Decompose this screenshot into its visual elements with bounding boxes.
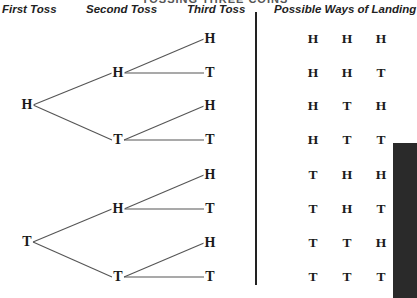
node-third-toss-tails: T — [204, 270, 215, 284]
outcome-tails: T — [336, 269, 358, 285]
outcome-row: TTT — [302, 269, 392, 285]
outcome-heads: H — [302, 132, 324, 148]
column-divider — [255, 12, 257, 285]
outcome-heads: H — [336, 65, 358, 81]
branch-line — [124, 39, 204, 73]
outcome-row: HHH — [302, 31, 392, 47]
node-second-toss-tails: T — [112, 133, 123, 147]
outcome-tails: T — [302, 235, 324, 251]
outcome-tails: T — [302, 167, 324, 183]
outcome-heads: H — [336, 31, 358, 47]
node-third-toss-tails: T — [204, 66, 215, 80]
branch-line — [124, 243, 204, 277]
node-third-toss-heads: H — [204, 168, 217, 182]
branch-line — [33, 242, 112, 277]
branch-line — [33, 209, 112, 242]
outcome-tails: T — [336, 98, 358, 114]
outcome-row: HHT — [302, 65, 392, 81]
outcome-row: HTH — [302, 98, 392, 114]
node-third-toss-tails: T — [204, 202, 215, 216]
node-second-toss-heads: H — [112, 202, 125, 216]
outcome-heads: H — [302, 31, 324, 47]
branch-line — [124, 106, 204, 140]
node-second-toss-heads: H — [112, 66, 125, 80]
outcome-heads: H — [370, 31, 392, 47]
outcome-tails: T — [370, 65, 392, 81]
outcome-heads: H — [370, 98, 392, 114]
outcome-tails: T — [336, 132, 358, 148]
outcome-tails: T — [370, 201, 392, 217]
node-third-toss-heads: H — [204, 32, 217, 46]
outcome-tails: T — [336, 235, 358, 251]
outcome-heads: H — [336, 201, 358, 217]
node-first-toss-tails: T — [21, 235, 32, 249]
outcome-heads: H — [370, 167, 392, 183]
outcome-tails: T — [302, 269, 324, 285]
node-third-toss-heads: H — [204, 236, 217, 250]
node-second-toss-tails: T — [112, 270, 123, 284]
outcome-row: TTH — [302, 235, 392, 251]
page-edge-shadow — [393, 143, 417, 298]
outcome-row: HTT — [302, 132, 392, 148]
outcome-row: THT — [302, 201, 392, 217]
outcome-heads: H — [302, 65, 324, 81]
outcome-tails: T — [370, 132, 392, 148]
outcome-tails: T — [302, 201, 324, 217]
node-third-toss-heads: H — [204, 99, 217, 113]
outcome-heads: H — [302, 98, 324, 114]
branch-line — [124, 175, 204, 209]
branch-line — [33, 73, 112, 105]
outcome-tails: T — [370, 269, 392, 285]
node-first-toss-heads: H — [21, 98, 34, 112]
outcome-row: THH — [302, 167, 392, 183]
node-third-toss-tails: T — [204, 133, 215, 147]
outcome-heads: H — [370, 235, 392, 251]
outcome-heads: H — [336, 167, 358, 183]
branch-line — [33, 105, 112, 140]
